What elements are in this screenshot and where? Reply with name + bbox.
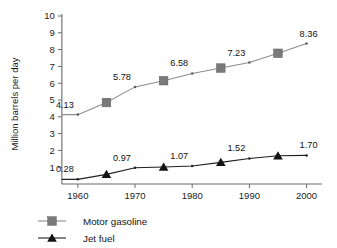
- x-axis-tick-label: 2000: [296, 190, 317, 201]
- y-axis-tick-label: 4: [50, 111, 55, 122]
- y-axis-tick-label: 2: [50, 145, 55, 156]
- series-marker-square-gasoline: [217, 64, 226, 73]
- y-axis-title: Million barrels per day: [9, 57, 20, 150]
- data-point-label-jet: 1.70: [300, 140, 318, 150]
- data-point-label-gasoline: 8.36: [300, 29, 318, 39]
- legend-label-motor-gasoline[interactable]: Motor gasoline: [83, 216, 148, 227]
- data-point-label-jet: 1.07: [170, 151, 188, 161]
- y-axis-tick-label: 8: [50, 44, 55, 55]
- fuel-consumption-line-chart: Million barrels per day 12345678910 1960…: [0, 0, 337, 248]
- series-marker-square-gasoline: [274, 49, 283, 58]
- y-axis-tick-label: 6: [50, 78, 55, 89]
- data-point-label-gasoline: 6.58: [170, 58, 188, 68]
- data-point-label-jet: 0.97: [113, 153, 131, 163]
- y-axis-tick-label: 1: [50, 162, 55, 173]
- y-axis-tick-label: 3: [50, 128, 55, 139]
- series-point-gasoline: [305, 42, 308, 45]
- x-axis-tick-label: 1960: [67, 190, 88, 201]
- y-axis-tick-label: 9: [50, 27, 55, 38]
- legend-marker-square: [48, 217, 57, 226]
- data-point-label-gasoline: 7.23: [227, 48, 245, 58]
- legend-label-jet-fuel[interactable]: Jet fuel: [83, 233, 115, 244]
- x-axis: 19601970198019902000: [62, 184, 322, 201]
- series-point-gasoline: [134, 86, 137, 89]
- series-point-jet: [134, 166, 137, 169]
- x-axis-tick-label: 1990: [239, 190, 260, 201]
- series-point-gasoline: [248, 61, 251, 64]
- y-axis-tick-label: 7: [50, 61, 55, 72]
- chart-legend: Motor gasolineJet fuel: [38, 216, 148, 244]
- series-point-gasoline: [191, 72, 194, 75]
- series-point-jet: [305, 154, 308, 157]
- data-point-label-gasoline: 4.13: [56, 100, 74, 110]
- y-axis-title-label: Million barrels per day: [9, 57, 20, 150]
- series-point-jet: [248, 157, 251, 160]
- series-marker-square-gasoline: [102, 98, 111, 107]
- series-line-gasoline: [62, 44, 307, 115]
- series-point-jet: [191, 165, 194, 168]
- y-axis-tick-label: 5: [50, 94, 55, 105]
- y-axis: 12345678910: [44, 10, 62, 184]
- data-point-label-gasoline: 5.78: [113, 72, 131, 82]
- series-marker-square-gasoline: [159, 76, 168, 85]
- x-axis-tick-label: 1970: [124, 190, 145, 201]
- data-point-label-jet: 1.52: [227, 143, 245, 153]
- chart-container: Million barrels per day 12345678910 1960…: [0, 0, 337, 248]
- series-point-gasoline: [77, 113, 80, 116]
- data-point-label-jet: 0.28: [56, 164, 74, 174]
- y-axis-tick-label: 10: [44, 10, 55, 21]
- x-axis-tick-label: 1980: [182, 190, 203, 201]
- series-point-jet: [77, 178, 80, 181]
